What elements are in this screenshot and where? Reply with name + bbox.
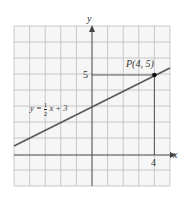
- y-axis-label: y: [87, 14, 91, 24]
- point-p: [152, 73, 157, 78]
- fraction-numerator: 1: [44, 101, 48, 110]
- point-label: P(4, 5): [126, 59, 154, 69]
- x-axis-label: x: [173, 150, 177, 160]
- x-tick-4: 4: [151, 158, 156, 168]
- equation-label: y = 1 2 x + 3: [30, 101, 67, 118]
- equation-rhs: x + 3: [49, 103, 67, 113]
- coordinate-plane: [0, 0, 187, 198]
- fraction-denominator: 2: [44, 110, 48, 118]
- y-tick-5: 5: [83, 70, 88, 80]
- fraction: 1 2: [44, 101, 48, 118]
- equation-lhs: y =: [30, 103, 42, 113]
